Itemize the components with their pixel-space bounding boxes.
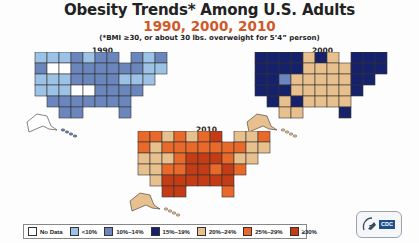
state-az — [47, 96, 59, 107]
state-tx — [162, 186, 174, 197]
state-fl — [339, 107, 351, 118]
state-ca — [255, 85, 267, 96]
legend-label: ≥30% — [302, 229, 317, 235]
state-az — [150, 175, 162, 186]
state-md — [234, 164, 246, 175]
state-hi — [65, 131, 69, 133]
state-in — [327, 63, 339, 74]
legend-label: 25%–29% — [255, 229, 282, 235]
state-va — [222, 153, 234, 164]
state-nd — [174, 131, 186, 142]
state-or — [35, 63, 47, 74]
state-ak — [247, 114, 277, 132]
state-pa — [351, 63, 363, 74]
state-az — [150, 164, 162, 175]
state-hi — [172, 212, 176, 214]
state-va — [339, 74, 351, 85]
state-mt — [279, 52, 291, 63]
state-nh — [363, 63, 375, 74]
state-ky — [95, 74, 107, 85]
legend-swatch — [70, 227, 79, 236]
state-sd — [291, 63, 303, 74]
state-sc — [339, 85, 351, 96]
state-al — [107, 96, 119, 107]
state-nv — [47, 63, 59, 74]
legend-swatch — [290, 227, 299, 236]
state-nh — [143, 63, 155, 74]
state-il — [198, 142, 210, 153]
state-pa — [131, 63, 143, 74]
state-ia — [303, 63, 315, 74]
state-hi — [73, 135, 77, 137]
state-hi — [164, 208, 168, 210]
state-tn — [198, 164, 210, 175]
legend-swatch — [28, 227, 37, 236]
state-ne — [174, 153, 186, 164]
state-ar — [83, 85, 95, 96]
state-mi — [327, 52, 339, 63]
state-nm — [279, 85, 291, 96]
state-mt — [59, 52, 71, 63]
years-subtitle: 1990, 2000, 2010 — [0, 18, 419, 34]
state-fl — [119, 107, 131, 118]
state-wy — [279, 63, 291, 74]
state-id — [47, 52, 59, 63]
state-ct — [143, 74, 155, 85]
state-ok — [174, 175, 186, 186]
state-ut — [267, 74, 279, 85]
state-wi — [95, 52, 107, 63]
state-sd — [174, 142, 186, 153]
state-tx — [162, 175, 174, 186]
state-mo — [303, 74, 315, 85]
state-ct — [363, 74, 375, 85]
state-ky — [315, 74, 327, 85]
state-il — [315, 63, 327, 74]
state-ca — [35, 85, 47, 96]
state-wv — [107, 74, 119, 85]
us-map-2010 — [128, 131, 290, 219]
state-ar — [186, 164, 198, 175]
state-ca — [255, 74, 267, 85]
state-hi — [69, 133, 73, 135]
state-wa — [255, 52, 267, 63]
state-oh — [119, 63, 131, 74]
legend-swatch — [243, 227, 252, 236]
state-ga — [222, 175, 234, 186]
state-mo — [83, 74, 95, 85]
state-mn — [83, 52, 95, 63]
state-in — [107, 63, 119, 74]
legend-swatch — [197, 227, 206, 236]
state-ny — [351, 52, 363, 63]
state-tx — [279, 96, 291, 107]
state-vt — [363, 52, 375, 63]
state-ks — [174, 164, 186, 175]
state-nm — [59, 85, 71, 96]
state-tx — [59, 107, 71, 118]
state-ut — [47, 74, 59, 85]
legend-label: No Data — [40, 229, 63, 235]
state-co — [59, 74, 71, 85]
state-wi — [315, 52, 327, 63]
state-hi — [293, 135, 297, 137]
state-ak — [130, 193, 160, 211]
state-mn — [186, 131, 198, 142]
legend-swatch — [104, 227, 113, 236]
state-tn — [315, 85, 327, 96]
legend-item: <10% — [70, 227, 98, 236]
state-mo — [186, 153, 198, 164]
state-ky — [198, 153, 210, 164]
state-wv — [210, 153, 222, 164]
state-ms — [198, 175, 210, 186]
state-tx — [174, 186, 186, 197]
legend-item: 25%–29% — [243, 227, 282, 236]
state-co — [279, 74, 291, 85]
state-ga — [119, 96, 131, 107]
map-svg — [128, 131, 290, 219]
state-ct — [246, 153, 258, 164]
cdc-badge: CDC — [379, 220, 395, 229]
legend-label: <10% — [82, 229, 98, 235]
state-sc — [222, 164, 234, 175]
legend-item: 10%–14% — [104, 227, 143, 236]
state-hi — [168, 210, 172, 212]
state-nh — [246, 142, 258, 153]
